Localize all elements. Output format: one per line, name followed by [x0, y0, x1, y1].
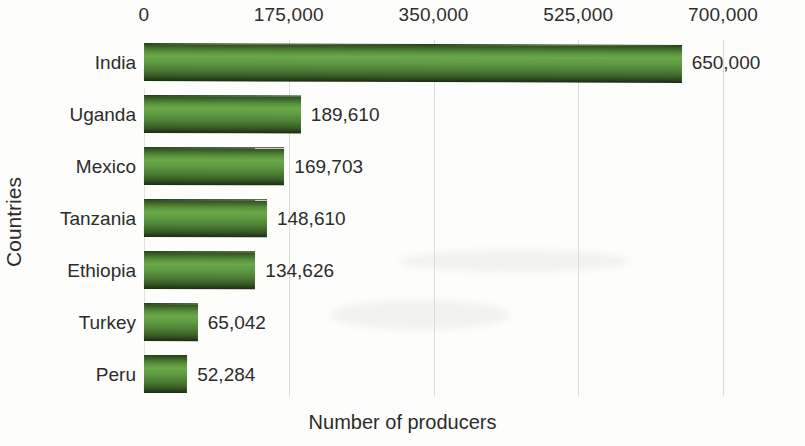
plot-area: India650,000Uganda189,610Mexico169,703Ta… — [0, 0, 805, 446]
bar-end-cap — [181, 355, 192, 393]
bar-chart: 0175,000350,000525,000700,000 India650,0… — [0, 0, 805, 446]
value-label: 169,703 — [294, 156, 363, 178]
category-label: Turkey — [79, 312, 136, 334]
value-label: 650,000 — [692, 52, 761, 74]
bar-end-cap — [249, 251, 260, 289]
bar-row: Mexico169,703 — [0, 145, 805, 189]
bar — [144, 251, 255, 289]
value-label: 65,042 — [208, 312, 266, 334]
category-label: Peru — [96, 364, 136, 386]
bar-body — [144, 303, 198, 341]
bar-end-cap — [676, 45, 687, 83]
value-label: 189,610 — [311, 104, 380, 126]
bar-end-cap — [261, 199, 272, 237]
bar-row: Ethiopia134,626 — [0, 249, 805, 293]
x-axis-title: Number of producers — [0, 411, 805, 434]
category-label: Mexico — [76, 156, 136, 178]
value-label: 134,626 — [265, 260, 334, 282]
category-label: Ethiopia — [67, 260, 136, 282]
bar-body — [144, 147, 284, 185]
category-label: Uganda — [69, 104, 136, 126]
bar-end-cap — [192, 303, 203, 341]
bar-end-cap — [295, 95, 306, 133]
bar-row: India650,000 — [0, 41, 805, 85]
bar — [144, 147, 284, 185]
bar-row: Turkey65,042 — [0, 301, 805, 345]
bar-body — [144, 199, 267, 237]
bar-end-cap — [278, 147, 289, 185]
bar-body — [144, 95, 301, 133]
value-label: 148,610 — [277, 208, 346, 230]
category-label: Tanzania — [60, 208, 136, 230]
bar — [144, 95, 301, 133]
bar-row: Tanzania148,610 — [0, 197, 805, 241]
bar-body — [144, 251, 255, 289]
bar-body — [144, 43, 682, 83]
bar — [144, 355, 187, 393]
category-label: India — [95, 52, 136, 74]
bar — [144, 199, 267, 237]
y-axis-title: Countries — [2, 122, 26, 322]
bar-row: Peru52,284 — [0, 353, 805, 397]
value-label: 52,284 — [197, 364, 255, 386]
bar — [144, 303, 198, 341]
bar — [144, 43, 682, 83]
bar-row: Uganda189,610 — [0, 93, 805, 137]
